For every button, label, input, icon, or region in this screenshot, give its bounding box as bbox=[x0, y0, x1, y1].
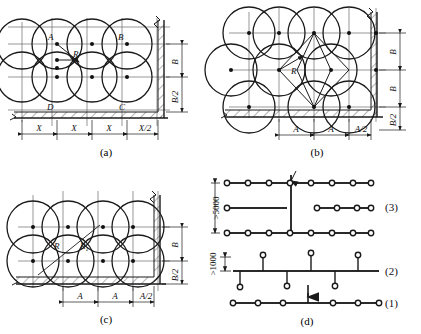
panel-b-caption: (b) bbox=[297, 146, 337, 158]
dim-b: B bbox=[170, 59, 180, 65]
dim-a-1: A bbox=[76, 291, 83, 301]
construction-grid bbox=[18, 191, 170, 291]
panel-c-drawing: R R1 A A A/2 bbox=[0, 167, 211, 334]
label-A: A bbox=[47, 32, 54, 42]
dim-chain-horizontal bbox=[22, 120, 158, 140]
dim-b: B bbox=[170, 242, 180, 248]
panel-b-v-dim-labels: B B B/2 bbox=[388, 49, 398, 127]
dim-x-1: X bbox=[35, 123, 42, 133]
dim-x-3: X bbox=[105, 123, 112, 133]
coverage-circles bbox=[7, 201, 164, 287]
dim-b-1: B bbox=[388, 49, 398, 55]
dim-x-half: X/2 bbox=[138, 123, 152, 133]
row-label-1: (1) bbox=[385, 297, 398, 310]
panel-c-radius-labels: R R1 bbox=[53, 241, 89, 252]
panel-c-caption: (c) bbox=[86, 313, 126, 325]
scheme-2: >1000 bbox=[208, 250, 379, 297]
label-B: B bbox=[118, 32, 124, 42]
panel-c-v-dim-labels: B B/2 bbox=[170, 242, 180, 282]
dim-gt-1000: >1000 bbox=[208, 252, 218, 276]
label-D: D bbox=[46, 102, 54, 112]
row-label-3: (3) bbox=[385, 201, 398, 214]
panel-a-caption: (a) bbox=[86, 146, 126, 158]
panel-d-drawing: >5000 (3) bbox=[211, 167, 421, 334]
break-line-icon bbox=[221, 8, 373, 118]
row-label-2: (2) bbox=[385, 265, 398, 278]
figure-root: A B C D R X X X X/2 bbox=[0, 0, 421, 334]
dim-a-half: A/2 bbox=[354, 124, 368, 134]
dim-gt-5000: >5000 bbox=[211, 196, 221, 220]
dim-a-2: A bbox=[111, 291, 118, 301]
panel-a-h-dim-labels: X X X X/2 bbox=[35, 123, 151, 133]
label-R: R bbox=[72, 49, 79, 59]
panel-d-caption: (d) bbox=[287, 315, 327, 327]
panel-c: R R1 A A A/2 bbox=[0, 167, 211, 334]
scheme-1 bbox=[230, 293, 381, 306]
dim-b-2: B bbox=[388, 86, 398, 92]
dim-a-half: A/2 bbox=[139, 291, 153, 301]
dim-b-half: B/2 bbox=[388, 113, 398, 126]
scheme-3: >5000 bbox=[211, 171, 374, 236]
panel-a-drawing: A B C D R X X X X/2 bbox=[0, 0, 211, 167]
dim-b-half: B/2 bbox=[170, 268, 180, 281]
panel-a-v-dim-labels: B B/2 bbox=[170, 59, 180, 104]
dim-x-2: X bbox=[70, 123, 77, 133]
construction-grid bbox=[229, 8, 386, 122]
dim-a-1: A bbox=[292, 124, 299, 134]
panel-a: A B C D R X X X X/2 bbox=[0, 0, 211, 167]
dim-a-2: A bbox=[327, 124, 334, 134]
panel-c-h-dim-labels: A A A/2 bbox=[76, 291, 152, 301]
panel-b: R A A A/2 bbox=[211, 0, 421, 167]
label-C: C bbox=[119, 102, 126, 112]
panel-d: >5000 (3) bbox=[211, 167, 421, 334]
panel-b-drawing: R A A A/2 bbox=[211, 0, 421, 167]
panel-b-h-dim-labels: A A A/2 bbox=[292, 124, 367, 134]
label-R: R bbox=[53, 241, 60, 251]
label-R: R bbox=[290, 66, 297, 76]
dim-b-half: B/2 bbox=[170, 90, 180, 103]
